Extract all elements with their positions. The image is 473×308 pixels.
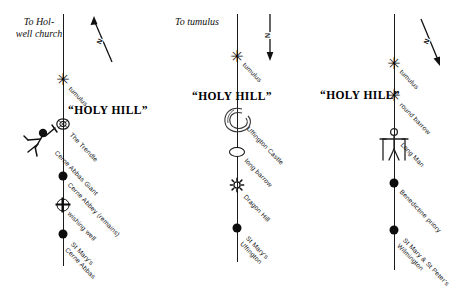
symbol-cerne-abbey — [59, 172, 68, 181]
holy-hill-cerne: “HOLY HILL” — [68, 104, 148, 116]
label-st-marys-uffington: St Mary's Uffington — [238, 235, 270, 267]
top-note-cerne: To Hol- well church — [8, 16, 70, 40]
holy-hill-uffington: “HOLY HILL” — [192, 90, 272, 102]
panel-cerne-abbas: To Hol- well church N ✳ tumulus “HOLY HI… — [0, 0, 160, 308]
north-arrow-wilmington: N — [413, 16, 447, 68]
north-label-uffington: N — [264, 32, 271, 39]
panel-uffington: To tumulus N ✳ tumulus “HOLY HILL” Uffin… — [158, 0, 318, 308]
symbol-tumulus-wilmington: ✳ — [387, 56, 402, 71]
symbol-st-marys-uffington — [233, 224, 242, 233]
label-tumulus-uffington: tumulus — [241, 61, 263, 83]
symbol-wishing-well — [57, 199, 70, 212]
label-st-marys-cerne: St Mary's Cerne Abbas — [63, 241, 103, 281]
north-arrow-uffington: N — [262, 14, 278, 62]
label-long-barrow: long barrow — [243, 157, 274, 188]
symbol-dragon-hill — [230, 178, 245, 197]
symbol-tumulus-cerne: ✳ — [56, 72, 71, 87]
label-trendle-cerne: The Trendle — [68, 131, 99, 163]
label-benedictine-priory: Benedictine priory — [398, 188, 442, 234]
north-arrow-cerne: N — [86, 14, 120, 64]
label-dragon-hill: Dragon Hill — [242, 193, 271, 223]
label-wishing-well: wishing well — [66, 210, 97, 242]
symbol-round-barrow: ✳ — [387, 88, 402, 103]
symbol-benedictine-priory — [390, 179, 399, 188]
symbol-tumulus-uffington: ✳ — [230, 49, 245, 64]
symbol-long-barrow — [229, 147, 245, 157]
label-st-mary-st-peter: St Mary & St Peter's Wilmington — [395, 237, 451, 294]
top-note-uffington: To tumulus — [162, 16, 232, 28]
panel-wilmington: N ✳ tumulus “HOLY HILL” ✳ round barrow L… — [316, 0, 473, 308]
symbol-st-marys-cerne — [59, 230, 68, 239]
label-tumulus-wilmington: tumulus — [398, 68, 420, 90]
symbol-st-mary-st-peter — [390, 226, 399, 235]
